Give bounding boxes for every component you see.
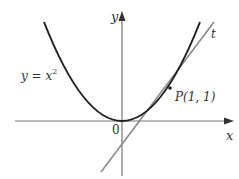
curve-label: y = x2: [20, 67, 57, 83]
origin-label: 0: [112, 123, 120, 137]
y-axis-arrow-icon: [119, 11, 126, 21]
point-p-marker: [168, 86, 172, 90]
x-axis-label: x: [226, 128, 234, 143]
curve-label-exponent: 2: [52, 67, 57, 76]
y-axis-label: y: [110, 9, 119, 24]
curve-label-main: y = x: [20, 69, 52, 83]
point-p-label: P(1, 1): [174, 90, 216, 104]
graph-canvas: y x 0 y = x2 P(1, 1) t: [0, 0, 239, 179]
x-axis-arrow-icon: [224, 118, 234, 125]
y-axis: [119, 11, 126, 176]
tangent-label: t: [211, 27, 216, 41]
